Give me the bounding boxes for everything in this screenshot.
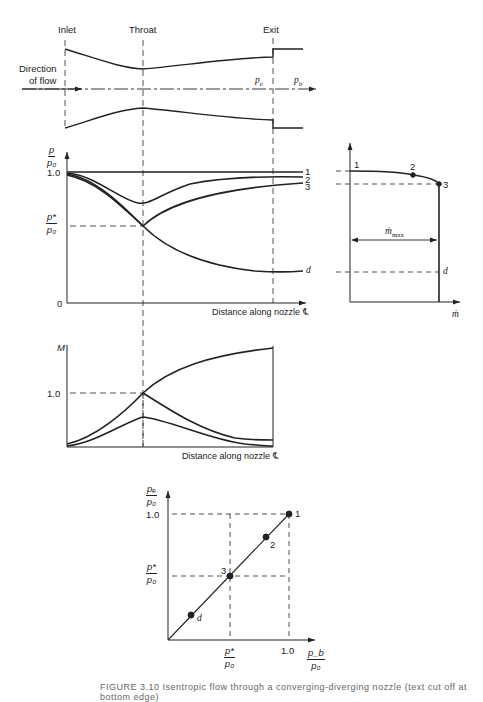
massflow-label-3: 3 [443, 180, 448, 190]
curve-label-d: d [306, 266, 311, 276]
exit-label-d: d [197, 614, 202, 624]
pb-x-label: p_b p₀ [307, 648, 325, 670]
exit-point-3 [227, 573, 233, 579]
nozzle-diagram [22, 38, 316, 660]
exit-pressure-chart [168, 491, 315, 640]
massflow-label-2: 2 [410, 162, 415, 172]
pressure-chart [67, 152, 306, 303]
exit-label-3: 3 [221, 566, 226, 576]
mmax-label: ṁmax [385, 227, 404, 239]
massflow-point-3 [437, 182, 442, 187]
direction-label-2: of flow [29, 76, 56, 86]
nozzle-upper-wall [65, 49, 303, 69]
figure-caption: FIGURE 3.10 Isentropic flow through a co… [100, 682, 483, 702]
mach-y-label: M [57, 343, 65, 353]
mach-tick-1: 1.0 [47, 389, 60, 399]
pe-y-tick-pstar: p* p₀ [146, 562, 157, 584]
nozzle-lower-wall [65, 108, 303, 128]
pressure-curve-3 [67, 174, 303, 226]
pb-label: pb [294, 76, 302, 88]
mach-chart [67, 345, 273, 447]
pb-x-tick-1: 1.0 [281, 646, 294, 656]
exit-label-2: 2 [270, 540, 275, 550]
pressure-tick-pstar: p* p₀ [46, 212, 57, 234]
inlet-label: Inlet [58, 25, 76, 35]
pressure-tick-0: 0 [57, 299, 62, 309]
direction-label-1: Direction [19, 64, 57, 74]
pe-y-label: pₑ p₀ [146, 484, 157, 506]
massflow-x-label: ṁ [452, 310, 459, 320]
massflow-point-2 [411, 173, 416, 178]
exit-point-d [188, 612, 194, 618]
pe-label: pe [255, 76, 263, 88]
curve-label-3: 3 [305, 182, 310, 192]
exit-label: Exit [263, 25, 279, 35]
exit-point-1 [286, 511, 292, 517]
exit-label-1: 1 [295, 509, 300, 519]
mach-curve-supersonic [67, 348, 273, 444]
pe-y-tick-1: 1.0 [146, 510, 159, 520]
massflow-label-d: d [443, 267, 448, 277]
pressure-y-label: p p₀ [47, 145, 56, 167]
pressure-curve-2 [67, 173, 303, 203]
pressure-tick-1: 1.0 [47, 168, 60, 178]
massflow-label-1: 1 [354, 160, 359, 170]
pb-x-tick-pstar: p* p₀ [224, 646, 235, 668]
pressure-x-label: Distance along nozzle ℄ [212, 308, 309, 317]
mach-curve-3 [143, 393, 273, 440]
throat-label: Throat [129, 25, 156, 35]
mach-x-label: Distance along nozzle ℄ [182, 452, 279, 461]
exit-point-2 [263, 534, 269, 540]
